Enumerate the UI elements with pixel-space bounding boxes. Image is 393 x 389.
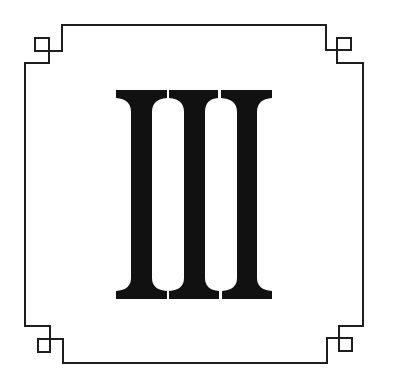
numeral-bar-3	[221, 90, 272, 299]
numeral-three-glyph	[116, 90, 272, 299]
numeral-bar-1	[116, 90, 167, 299]
numeral-bar-2	[169, 90, 219, 299]
emblem-graphic	[0, 0, 393, 389]
